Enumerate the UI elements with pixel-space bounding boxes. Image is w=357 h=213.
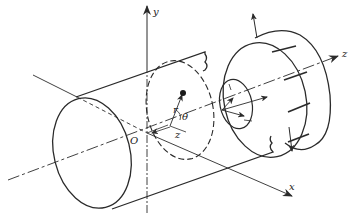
x-axis-back xyxy=(33,75,77,97)
x-axis-label: x xyxy=(289,181,295,192)
z-axis-label: z xyxy=(341,48,348,59)
disk-outer-back-edge xyxy=(255,31,330,150)
radial-outward-arrow-bottom xyxy=(289,127,292,151)
x-axis-hidden xyxy=(77,97,147,133)
y-axis-label: y xyxy=(152,6,159,17)
origin-label: O xyxy=(130,135,138,146)
cylindrical-coordinates-diagram: y x z O r θ z xyxy=(0,0,357,213)
x-axis xyxy=(147,133,292,196)
point-marker xyxy=(180,90,186,96)
theta-label: θ xyxy=(182,111,188,122)
disk-inner-hole xyxy=(215,76,257,132)
radial-outward-arrow-top xyxy=(253,14,257,38)
inner-tick-top xyxy=(229,84,231,90)
cylinder-bottom-edge xyxy=(112,136,273,209)
z-distance-label: z xyxy=(174,129,181,140)
disk-rib xyxy=(284,72,307,80)
annular-disk xyxy=(213,31,331,166)
cylinder-end-ellipse xyxy=(42,89,143,213)
cylinder-top-edge xyxy=(76,52,207,97)
disk-front-outer xyxy=(213,35,317,166)
inner-vector-axial xyxy=(222,97,267,110)
